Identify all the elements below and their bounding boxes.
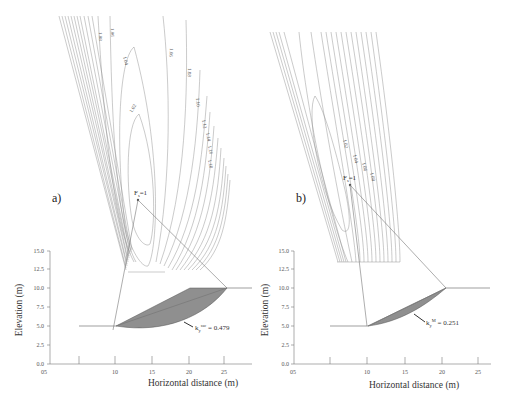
panel-label-b: b) bbox=[296, 191, 306, 205]
svg-text:1.18: 1.18 bbox=[207, 159, 214, 169]
svg-text:2.5: 2.5 bbox=[37, 342, 45, 348]
svg-text:1.04: 1.04 bbox=[122, 56, 129, 66]
svg-text:1.08: 1.08 bbox=[369, 172, 376, 182]
svg-text:5.0: 5.0 bbox=[282, 323, 290, 329]
panel-a: 1.08 1.06 1.04 1.06 1.08 1.02 1.10 1.12 … bbox=[14, 16, 252, 389]
svg-text:1.10: 1.10 bbox=[195, 98, 201, 108]
contours-b bbox=[270, 32, 400, 262]
svg-text:1.16: 1.16 bbox=[207, 145, 214, 155]
ky-arrow-b bbox=[414, 314, 425, 322]
x-axis-label-b: Horizontal distance (m) bbox=[369, 380, 459, 391]
fs-label-a: Fs=1 bbox=[134, 189, 148, 198]
svg-text:1.06: 1.06 bbox=[110, 28, 115, 37]
svg-text:15.0: 15.0 bbox=[34, 248, 45, 254]
svg-text:1.02: 1.02 bbox=[129, 103, 138, 114]
svg-text:05: 05 bbox=[41, 369, 47, 375]
panel-b: 1.02 1.04 1.06 1.08 b) Fs=1 kyM = 0.251 bbox=[260, 32, 491, 391]
svg-text:25: 25 bbox=[221, 369, 227, 375]
ky-arrow-a bbox=[184, 322, 193, 327]
svg-text:20: 20 bbox=[186, 369, 192, 375]
svg-text:1.06: 1.06 bbox=[168, 48, 174, 58]
svg-text:10.0: 10.0 bbox=[279, 285, 290, 291]
svg-text:1.04: 1.04 bbox=[352, 154, 359, 164]
y-ticks-b: 0.0 2.5 5.0 7.5 10.0 12.5 15.0 bbox=[279, 248, 290, 367]
axes-a bbox=[47, 251, 252, 364]
svg-text:10: 10 bbox=[112, 369, 118, 375]
svg-text:15: 15 bbox=[402, 369, 408, 375]
svg-text:25: 25 bbox=[475, 369, 481, 375]
svg-text:15: 15 bbox=[149, 369, 155, 375]
svg-text:1.02: 1.02 bbox=[342, 139, 349, 149]
svg-text:5.0: 5.0 bbox=[37, 323, 45, 329]
svg-text:12.5: 12.5 bbox=[34, 266, 45, 272]
svg-text:7.5: 7.5 bbox=[282, 304, 290, 310]
fs-label-b: Fs=1 bbox=[343, 174, 357, 183]
x-ticks-a: 05 10 15 20 25 bbox=[41, 369, 227, 375]
svg-text:0.0: 0.0 bbox=[37, 361, 45, 367]
svg-text:12.5: 12.5 bbox=[279, 266, 290, 272]
ky-label-b: kyM = 0.251 bbox=[426, 318, 459, 328]
svg-text:10.0: 10.0 bbox=[34, 285, 45, 291]
y-ticks-a: 0.0 2.5 5.0 7.5 10.0 12.5 15.0 bbox=[34, 248, 45, 367]
svg-text:0.0: 0.0 bbox=[282, 361, 290, 367]
y-axis-label-a: Elevation (m) bbox=[14, 284, 25, 337]
svg-text:7.5: 7.5 bbox=[37, 304, 45, 310]
y-axis-label-b: Elevation (m) bbox=[260, 284, 271, 337]
x-axis-label-a: Horizontal distance (m) bbox=[148, 378, 238, 389]
ky-label-a: kyssc = 0.479 bbox=[195, 323, 230, 333]
svg-text:1.08: 1.08 bbox=[98, 32, 103, 41]
radius-lines-b bbox=[350, 185, 446, 326]
x-ticks-b: 05 10 15 20 25 bbox=[290, 369, 481, 375]
figure: 1.08 1.06 1.04 1.06 1.08 1.02 1.10 1.12 … bbox=[0, 0, 507, 406]
svg-text:15.0: 15.0 bbox=[279, 248, 290, 254]
svg-text:10: 10 bbox=[364, 369, 370, 375]
axes-b bbox=[291, 251, 491, 364]
svg-text:2.5: 2.5 bbox=[282, 342, 290, 348]
svg-text:1.08: 1.08 bbox=[187, 68, 192, 77]
svg-text:20: 20 bbox=[439, 369, 445, 375]
contours-a bbox=[59, 16, 230, 272]
svg-text:1.12: 1.12 bbox=[201, 119, 208, 129]
svg-text:05: 05 bbox=[290, 369, 296, 375]
svg-text:1.14: 1.14 bbox=[205, 132, 212, 142]
contour-labels-a: 1.08 1.06 1.04 1.06 1.08 1.02 1.10 1.12 … bbox=[98, 28, 214, 169]
panel-label-a: a) bbox=[52, 191, 61, 205]
